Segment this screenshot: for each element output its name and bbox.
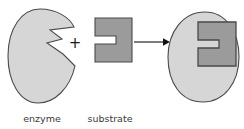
diagram-canvas: + enzyme substrate xyxy=(0,0,244,129)
substrate-label: substrate xyxy=(88,113,133,124)
substrate-shape xyxy=(95,18,132,62)
plus-sign: + xyxy=(69,34,82,52)
enzyme-substrate-diagram: + enzyme substrate xyxy=(0,0,244,129)
enzyme-label: enzyme xyxy=(23,113,61,124)
reaction-arrow xyxy=(134,38,170,45)
enzyme-shape xyxy=(8,9,75,103)
enzyme-substrate-complex xyxy=(168,12,239,102)
